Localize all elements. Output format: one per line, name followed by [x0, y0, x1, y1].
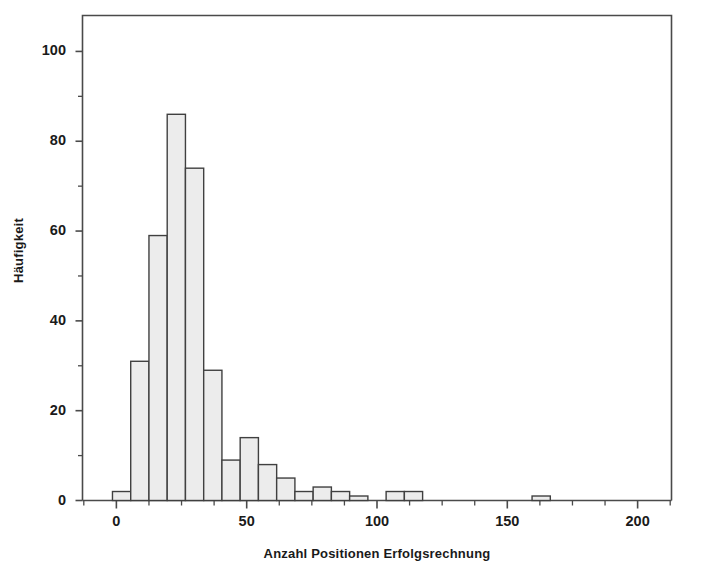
x-tick-group — [84, 501, 670, 509]
y-tick-label: 80 — [22, 133, 66, 148]
histogram-bar — [532, 496, 550, 500]
histogram-bar — [386, 492, 404, 501]
histogram-bar — [167, 114, 185, 500]
histogram-bars — [112, 114, 550, 500]
x-tick-label: 0 — [86, 514, 146, 529]
y-tick-label: 60 — [22, 223, 66, 238]
x-tick-label: 100 — [347, 514, 407, 529]
histogram-bar — [277, 478, 295, 500]
y-tick-label: 20 — [22, 403, 66, 418]
histogram-bar — [185, 168, 203, 500]
y-tick-label: 100 — [22, 43, 66, 58]
histogram-bar — [222, 460, 240, 500]
y-tick-label: 0 — [22, 493, 66, 508]
histogram-bar — [240, 438, 258, 501]
histogram-bar — [404, 492, 422, 501]
histogram-bar — [131, 361, 149, 500]
histogram-bar — [204, 370, 222, 500]
x-tick-label: 200 — [608, 514, 668, 529]
histogram-bar — [350, 496, 368, 500]
y-tick-group — [76, 51, 83, 500]
y-axis-title: Häufigkeit — [6, 0, 30, 500]
x-tick-label: 50 — [217, 514, 277, 529]
histogram-bar — [149, 236, 167, 501]
histogram-bar — [112, 492, 130, 501]
x-axis-title: Anzahl Positionen Erfolgsrechnung — [82, 546, 672, 561]
histogram-bar — [258, 465, 276, 501]
plot-area — [0, 0, 709, 588]
histogram-bar — [295, 492, 313, 501]
x-tick-label: 150 — [477, 514, 537, 529]
histogram-bar — [331, 492, 349, 501]
y-tick-label: 40 — [22, 313, 66, 328]
histogram-figure: Häufigkeit 020406080100 050100150200 Anz… — [0, 0, 709, 588]
histogram-bar — [313, 487, 331, 500]
figure-caption — [36, 578, 676, 588]
